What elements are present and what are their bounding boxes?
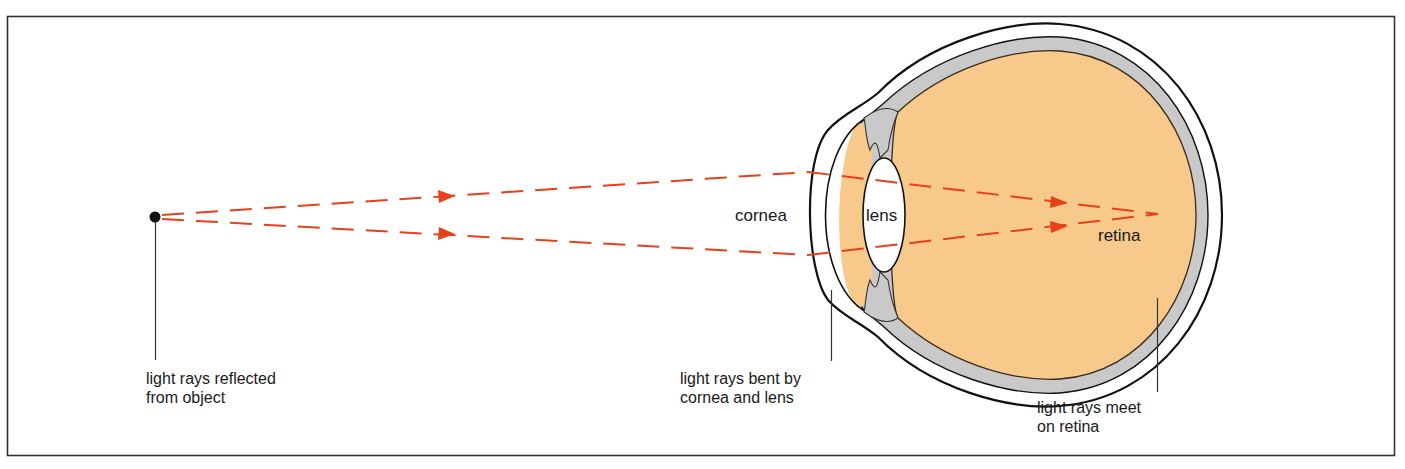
caption-bent-line2: cornea and lens	[680, 389, 794, 406]
caption-bent-line1: light rays bent by	[680, 370, 801, 387]
caption-object-line1: light rays reflected	[146, 370, 276, 387]
caption-meet-line2: on retina	[1037, 418, 1099, 435]
eye-focusing-diagram: cornea lens retina light rays reflected …	[0, 0, 1405, 469]
label-retina: retina	[1098, 226, 1141, 245]
caption-object-line2: from object	[146, 389, 226, 406]
object-point	[150, 212, 161, 223]
label-cornea: cornea	[735, 206, 788, 225]
label-lens: lens	[866, 206, 897, 225]
caption-meet-line1: light rays meet	[1037, 399, 1142, 416]
